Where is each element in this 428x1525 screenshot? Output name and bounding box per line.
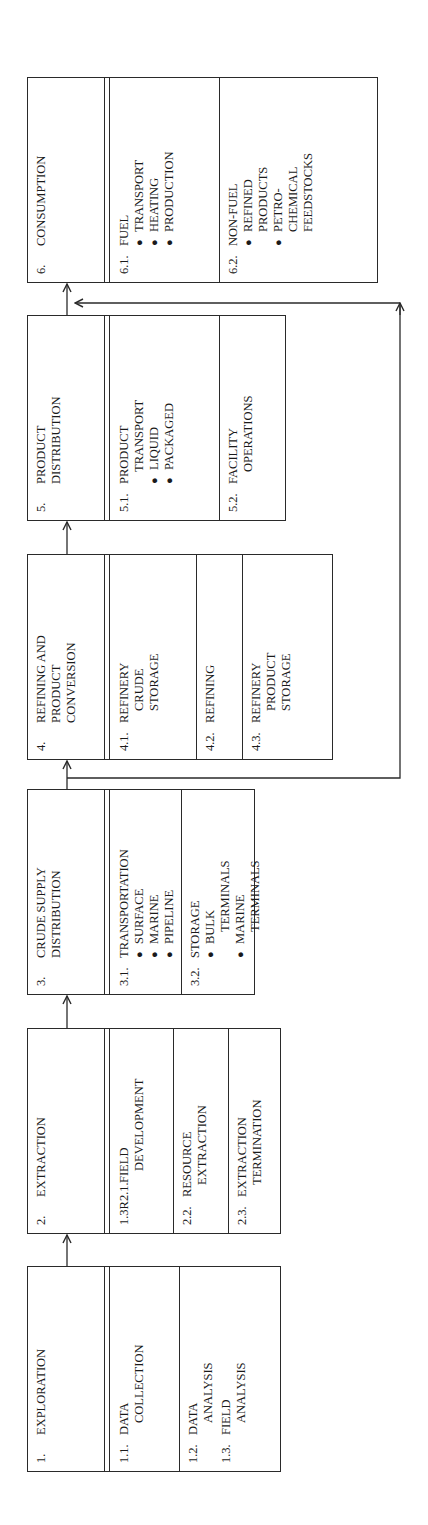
bullet-icon: ● xyxy=(203,944,233,958)
bullet-icon: ● xyxy=(132,944,147,958)
bullet-icon: ● xyxy=(162,470,177,484)
bullet-icon: ● xyxy=(147,944,162,958)
substage-2-2: 2.2. RESOURCEEXTRACTION xyxy=(173,1029,228,1233)
stage-consumption: 6. CONSUMPTION 6.1. FUEL ●TRANSPORT ●HEA… xyxy=(27,77,378,283)
substage-4-2: 4.2. REFINING xyxy=(196,555,242,759)
substage-1-3: 1.3. FIELDANALYSIS xyxy=(213,1267,281,1471)
bullet-icon: ● xyxy=(147,232,162,246)
substage-5-1: 5.1. PRODUCTTRANSPORT ●LIQUID ●PACKAGED xyxy=(111,316,219,520)
stage-product-distribution: 5. PRODUCTDISTRIBUTION 5.1. PRODUCTTRANS… xyxy=(27,315,286,521)
stage-crude-supply-distribution: 3. CRUDE SUPPLYDISTRIBUTION 3.1. TRANSPO… xyxy=(27,789,255,995)
substage-3-1: 3.1. TRANSPORTATION ●SURFACE ●MARINE ●PI… xyxy=(111,790,181,994)
substage-4-1: 4.1. REFINERYCRUDESTORAGE xyxy=(111,555,196,759)
substage-2-3: 2.3. EXTRACTIONTERMINATION xyxy=(228,1029,282,1233)
bullet-icon: ● xyxy=(233,944,263,958)
substage-6-2: 6.2. NON-FUEL ●REFINEDPRODUCTS ●PETRO-CH… xyxy=(219,78,379,282)
bullet-icon: ● xyxy=(162,944,177,958)
substage-4-3: 4.3. REFINERYPRODUCTSTORAGE xyxy=(242,555,334,759)
substage-5-2: 5.2. FACILITYOPERATIONS xyxy=(219,316,287,520)
substage-1-2: 1.2. DATAANALYSIS xyxy=(179,1267,214,1471)
petroleum-lifecycle-diagram: 1. EXPLORATION 1.1. DATACOLLECTION 1.2. … xyxy=(0,0,428,1525)
substage-2-1: 1.3R2.1. FIELDDEVELOPMENT xyxy=(111,1029,173,1233)
substage-6-1: 6.1. FUEL ●TRANSPORT ●HEATING ●PRODUCTIO… xyxy=(111,78,219,282)
bullet-icon: ● xyxy=(241,232,271,246)
stage-exploration: 1. EXPLORATION 1.1. DATACOLLECTION 1.2. … xyxy=(27,1266,240,1472)
stage-extraction: 2. EXTRACTION 1.3R2.1. FIELDDEVELOPMENT … xyxy=(27,1028,281,1234)
bullet-icon: ● xyxy=(162,232,177,246)
substage-1-3-box: 1.3. FIELDANALYSIS xyxy=(213,1266,281,1472)
substage-3-2: 3.2. STORAGE ●BULKTERMINALS ●MARINETERMI… xyxy=(181,790,256,994)
stage-refining-and-product-conversion: 4. REFINING ANDPRODUCTCONVERSION 4.1. RE… xyxy=(27,554,333,760)
substage-1-1: 1.1. DATACOLLECTION xyxy=(111,1267,179,1471)
stage-header: 1. EXPLORATION xyxy=(28,1267,105,1471)
bullet-icon: ● xyxy=(132,232,147,246)
bullet-icon: ● xyxy=(147,470,162,484)
bullet-icon: ● xyxy=(271,232,316,246)
